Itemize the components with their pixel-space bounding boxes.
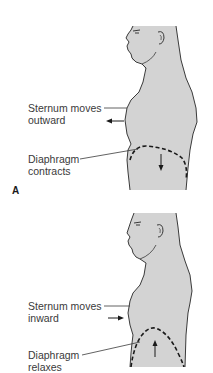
diaphragm-label-contracts: Diaphragm contracts [28, 153, 79, 177]
panel-a-inhalation: Sternum moves outward Diaphragm contract… [0, 0, 213, 195]
sternum-label-outward: Sternum moves outward [28, 102, 102, 126]
arrow-left-icon [106, 119, 124, 124]
diaphragm-label-relaxes: Diaphragm relaxes [28, 349, 79, 373]
torso-shape [127, 213, 192, 367]
sternum-label-inward: Sternum moves inward [28, 300, 102, 324]
arrow-right-icon [108, 316, 124, 321]
panel-b-exhalation: Sternum moves inward Diaphragm relaxes [0, 195, 213, 367]
body-silhouette-exhale [0, 195, 213, 367]
